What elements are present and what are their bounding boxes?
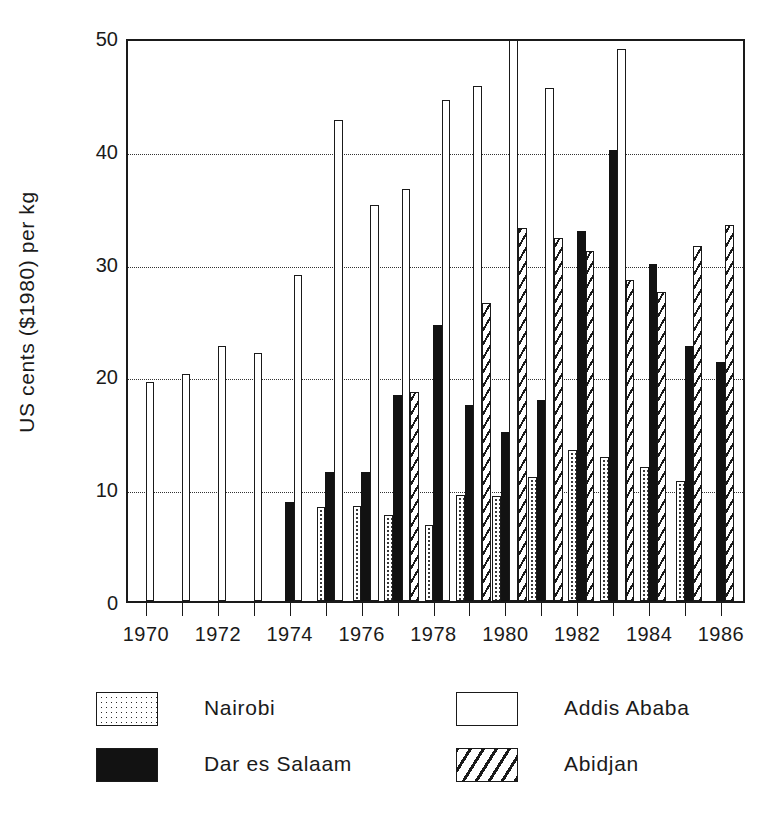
y-tick-label-0: 0 — [72, 593, 118, 613]
legend-label-dar: Dar es Salaam — [204, 752, 352, 776]
x-tick-1975 — [326, 603, 327, 616]
bar-nairobi-1979 — [456, 495, 465, 601]
bar-dar-1974 — [285, 502, 294, 601]
bar-abidjan-1979 — [482, 303, 491, 601]
bar-addis-1983 — [617, 49, 626, 601]
x-tick-1983 — [613, 603, 614, 616]
bar-nairobi-1985 — [676, 481, 685, 601]
bar-abidjan-1981 — [554, 238, 563, 601]
y-tick-label-20: 20 — [72, 367, 118, 387]
bar-nairobi-1980 — [492, 496, 501, 601]
bar-dar-1985 — [685, 346, 694, 601]
bar-nairobi-1977 — [384, 515, 393, 601]
bar-nairobi-1981 — [528, 477, 537, 601]
bar-addis-1979 — [473, 86, 482, 602]
bar-abidjan-1985 — [693, 246, 702, 601]
plot-inner — [128, 41, 743, 601]
bar-abidjan-1984 — [657, 292, 666, 601]
legend-label-addis: Addis Ababa — [564, 696, 690, 720]
x-tick-1973 — [254, 603, 255, 616]
x-tick-1985 — [685, 603, 686, 616]
legend-label-abidjan: Abidjan — [564, 752, 639, 776]
x-tick-label-1972: 1972 — [183, 623, 253, 646]
x-tick-label-1974: 1974 — [255, 623, 325, 646]
bar-dar-1981 — [537, 400, 546, 601]
legend-swatch-dar — [96, 748, 158, 782]
y-tick-label-10: 10 — [72, 480, 118, 500]
x-tick-label-1984: 1984 — [614, 623, 684, 646]
bar-addis-1977 — [402, 189, 411, 601]
bar-addis-1981 — [545, 88, 554, 601]
bar-dar-1983 — [609, 150, 618, 601]
y-tick-label-50: 50 — [72, 29, 118, 49]
x-tick-1974 — [290, 603, 291, 616]
bar-nairobi-1978 — [425, 525, 434, 601]
bar-dar-1982 — [577, 231, 586, 601]
x-tick-1986 — [721, 603, 722, 616]
bar-dar-1980 — [501, 432, 510, 601]
x-tick-label-1970: 1970 — [111, 623, 181, 646]
plot-area — [126, 39, 745, 603]
x-tick-1979 — [469, 603, 470, 616]
y-tick-label-30: 30 — [72, 255, 118, 275]
bar-addis-1976 — [370, 205, 379, 601]
chart-legend: NairobiAddis AbabaDar es SalaamAbidjan — [96, 690, 736, 800]
x-tick-label-1980: 1980 — [470, 623, 540, 646]
x-axis: 197019721974197619781980198219841986 — [126, 603, 745, 663]
bar-addis-1971 — [182, 374, 191, 601]
legend-swatch-abidjan — [456, 748, 518, 782]
bar-abidjan-1977 — [410, 392, 419, 601]
x-tick-label-1978: 1978 — [399, 623, 469, 646]
bar-dar-1984 — [649, 264, 658, 601]
x-tick-1977 — [398, 603, 399, 616]
bar-nairobi-1976 — [353, 506, 362, 601]
bar-addis-1978 — [442, 100, 451, 601]
bar-dar-1979 — [465, 405, 474, 601]
x-tick-1976 — [362, 603, 363, 616]
bar-addis-1974 — [294, 275, 303, 601]
bar-abidjan-1982 — [586, 251, 595, 601]
bar-nairobi-1975 — [317, 507, 326, 601]
x-tick-1982 — [577, 603, 578, 616]
x-tick-label-1982: 1982 — [542, 623, 612, 646]
y-axis-title: US cents ($1980) per kg — [15, 52, 39, 572]
bar-addis-1972 — [218, 346, 227, 601]
y-tick-label-40: 40 — [72, 142, 118, 162]
x-tick-1971 — [182, 603, 183, 616]
bar-dar-1976 — [361, 472, 370, 601]
bar-addis-1970 — [146, 382, 155, 601]
x-tick-1980 — [505, 603, 506, 616]
chart-figure: US cents ($1980) per kg 01020304050 1970… — [0, 0, 779, 829]
bar-addis-1973 — [254, 353, 263, 601]
legend-swatch-nairobi — [96, 692, 158, 726]
bar-abidjan-1980 — [518, 228, 527, 601]
x-tick-label-1986: 1986 — [686, 623, 756, 646]
bar-dar-1986 — [716, 362, 725, 601]
bar-addis-1975 — [334, 120, 343, 601]
x-tick-1978 — [434, 603, 435, 616]
x-tick-1984 — [649, 603, 650, 616]
bar-dar-1977 — [393, 395, 402, 601]
x-tick-label-1976: 1976 — [327, 623, 397, 646]
bar-addis-1980 — [509, 41, 518, 601]
gridline-40 — [128, 154, 743, 155]
bar-nairobi-1983 — [600, 457, 609, 601]
legend-label-nairobi: Nairobi — [204, 696, 275, 720]
bar-dar-1978 — [433, 325, 442, 601]
x-tick-1970 — [146, 603, 147, 616]
bar-abidjan-1986 — [725, 225, 734, 601]
bar-dar-1975 — [325, 472, 334, 601]
bar-nairobi-1984 — [640, 467, 649, 601]
bar-nairobi-1982 — [568, 450, 577, 601]
bar-abidjan-1983 — [626, 280, 635, 601]
x-tick-1972 — [218, 603, 219, 616]
legend-swatch-addis — [456, 692, 518, 726]
x-tick-1981 — [541, 603, 542, 616]
